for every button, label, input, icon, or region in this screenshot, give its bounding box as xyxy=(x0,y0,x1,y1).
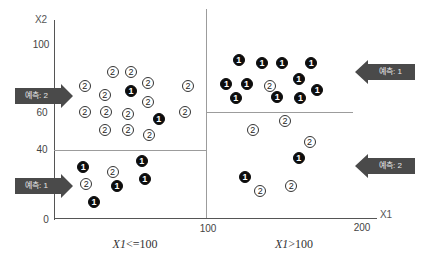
prediction-arrow-upper-left: 예측: 2 xyxy=(15,84,75,108)
prediction-arrow-upper-right: 예측: 1 xyxy=(355,60,415,84)
data-point-class-1: 1 xyxy=(125,85,137,97)
split-line-x2-60-right xyxy=(206,112,353,113)
data-point-class-1: 1 xyxy=(139,173,151,185)
data-point-class-1: 1 xyxy=(239,171,251,183)
prediction-arrow-lower-right: 예측: 2 xyxy=(355,154,415,178)
data-point-class-2: 2 xyxy=(179,106,191,118)
region-label-left-var: X1 xyxy=(113,237,126,251)
data-point-class-1: 1 xyxy=(271,91,283,103)
region-label-left-op: <=100 xyxy=(126,237,158,251)
data-point-class-2: 2 xyxy=(122,108,134,120)
data-point-class-2: 2 xyxy=(100,106,112,118)
data-point-class-2: 2 xyxy=(122,124,134,136)
data-point-class-1: 1 xyxy=(241,78,253,90)
region-label-right-var: X1 xyxy=(275,237,288,251)
x-tick-100: 100 xyxy=(200,224,217,234)
region-label-left: X1<=100 xyxy=(113,237,158,252)
data-point-class-2: 2 xyxy=(304,136,316,148)
data-point-class-2: 2 xyxy=(254,185,266,197)
data-point-class-2: 2 xyxy=(79,80,91,92)
y-axis-title: X2 xyxy=(35,15,47,25)
data-point-class-2: 2 xyxy=(142,96,154,108)
x-tick-200: 200 xyxy=(354,223,371,233)
data-point-class-1: 1 xyxy=(111,180,123,192)
data-point-class-2: 2 xyxy=(107,166,119,178)
x-axis xyxy=(54,218,377,219)
y-tick-40: 40 xyxy=(36,145,47,155)
data-point-class-2: 2 xyxy=(79,106,91,118)
data-point-class-1: 1 xyxy=(293,73,305,85)
data-point-class-1: 1 xyxy=(230,92,242,104)
y-tick-0: 0 xyxy=(43,215,49,225)
data-point-class-1: 1 xyxy=(233,54,245,66)
region-label-right: X1>100 xyxy=(275,237,313,252)
x-axis-title: X1 xyxy=(380,210,392,220)
data-point-class-2: 2 xyxy=(80,178,92,190)
data-point-class-2: 2 xyxy=(99,124,111,136)
data-point-class-1: 1 xyxy=(136,155,148,167)
region-label-right-op: >100 xyxy=(288,237,313,251)
data-point-class-1: 1 xyxy=(305,57,317,69)
data-point-class-1: 1 xyxy=(256,57,268,69)
data-point-class-1: 1 xyxy=(88,196,100,208)
data-point-class-1: 1 xyxy=(294,92,306,104)
prediction-label: 예측: 2 xyxy=(25,84,48,108)
y-tick-60: 60 xyxy=(36,108,47,118)
y-tick-100: 100 xyxy=(33,40,50,50)
data-point-class-2: 2 xyxy=(125,66,137,78)
data-point-class-2: 2 xyxy=(182,80,194,92)
prediction-arrow-lower-left: 예측: 1 xyxy=(15,174,75,198)
data-point-class-2: 2 xyxy=(247,124,259,136)
data-point-class-1: 1 xyxy=(293,152,305,164)
data-point-class-2: 2 xyxy=(279,115,291,127)
prediction-label: 예측: 1 xyxy=(25,174,48,198)
prediction-label: 예측: 1 xyxy=(379,60,402,84)
data-point-class-2: 2 xyxy=(285,180,297,192)
data-point-class-2: 2 xyxy=(142,77,154,89)
split-line-x2-40-left xyxy=(54,150,207,151)
data-point-class-1: 1 xyxy=(220,78,232,90)
data-point-class-1: 1 xyxy=(276,57,288,69)
split-line-x1-100 xyxy=(206,9,207,218)
data-point-class-2: 2 xyxy=(143,129,155,141)
data-point-class-1: 1 xyxy=(311,84,323,96)
data-point-class-2: 2 xyxy=(107,66,119,78)
data-point-class-1: 1 xyxy=(77,161,89,173)
prediction-label: 예측: 2 xyxy=(379,154,402,178)
data-point-class-1: 1 xyxy=(153,113,165,125)
data-point-class-2: 2 xyxy=(99,89,111,101)
decision-tree-partition-diagram: X2 X1 100 60 40 0 100 200 X1<=100 X1>100… xyxy=(0,0,425,261)
